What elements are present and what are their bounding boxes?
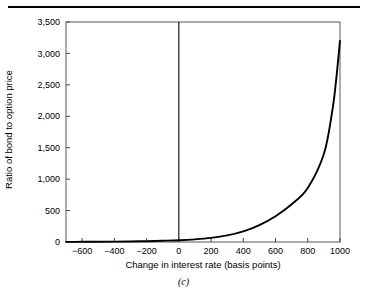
x-axis-tick-labels: −600−400−20002004006008001000 [72, 246, 350, 256]
y-tick-label: 1,500 [37, 143, 60, 153]
y-tick-label: 3,500 [37, 17, 60, 27]
x-tick-label: 200 [204, 246, 219, 256]
x-tick-label: 0 [176, 246, 181, 256]
panel-caption: (c) [0, 276, 367, 287]
x-tick-label: 400 [236, 246, 251, 256]
figure-panel-c: −600−400−20002004006008001000 05001,0001… [0, 0, 367, 302]
chart-plot-area: −600−400−20002004006008001000 05001,0001… [0, 0, 367, 302]
chart-svg: −600−400−20002004006008001000 05001,0001… [0, 0, 367, 302]
y-tick-label: 500 [45, 206, 60, 216]
y-tick-label: 3,000 [37, 49, 60, 59]
y-tick-label: 1,000 [37, 174, 60, 184]
x-tick-label: 800 [300, 246, 315, 256]
x-tick-label: −400 [104, 246, 124, 256]
plot-frame [66, 22, 340, 242]
x-tick-label: −200 [136, 246, 156, 256]
y-axis-tick-labels: 05001,0001,5002,0002,5003,0003,500 [37, 17, 60, 247]
y-axis-title: Ratio of bond to option price [3, 30, 14, 230]
y-tick-label: 2,000 [37, 111, 60, 121]
x-tick-label: −600 [72, 246, 92, 256]
y-tick-label: 2,500 [37, 80, 60, 90]
x-tick-label: 1000 [330, 246, 350, 256]
y-tick-label: 0 [55, 237, 60, 247]
x-tick-label: 600 [268, 246, 283, 256]
x-axis-title: Change in interest rate (basis points) [66, 259, 340, 270]
